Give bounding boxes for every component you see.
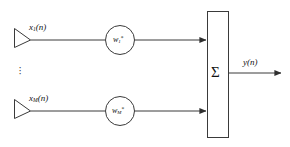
input-label-1: x1(n) xyxy=(29,23,46,32)
weight-label-1: w1* xyxy=(113,36,124,44)
input-label-M-arg: (n) xyxy=(38,93,49,103)
weight-label-M-superscript: * xyxy=(121,106,124,112)
summation-symbol: Σ xyxy=(211,65,220,80)
output-label: y(n) xyxy=(243,58,258,67)
input-label-1-arg: (n) xyxy=(36,22,47,32)
weight-label-1-superscript: * xyxy=(121,35,124,41)
vertical-ellipsis: · · · xyxy=(16,66,24,76)
weight-label-M: wM* xyxy=(112,107,124,115)
block-diagram-canvas: x1(n) xM(n) · · · w1* wM* Σ y(n) xyxy=(0,0,290,147)
output-label-arg: (n) xyxy=(247,57,258,67)
input-label-M: xM(n) xyxy=(29,94,48,103)
ellipsis-dot-3: · xyxy=(16,72,24,75)
